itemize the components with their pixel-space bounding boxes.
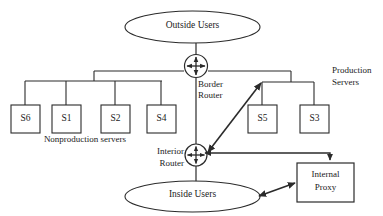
network-diagram-canvas: Outside Users Inside Users Border Router…: [0, 0, 383, 216]
server-label-s4: S4: [147, 114, 176, 124]
cloud-label-inside-users: Inside Users: [125, 190, 260, 200]
interior-router-label-line1: Interior: [124, 147, 184, 156]
production-servers-caption-line2: Servers: [332, 78, 359, 87]
interior-router-symbol: [185, 144, 207, 166]
interior-router-label-line2: Router: [124, 159, 184, 168]
border-router-symbol: [185, 55, 208, 78]
production-servers-caption-line1: Production: [332, 66, 372, 75]
nonproduction-servers-caption: Nonproduction servers: [30, 135, 140, 144]
server-label-s3: S3: [300, 114, 329, 124]
internal-proxy-label-line1: Internal: [297, 170, 354, 179]
server-label-s6: S6: [11, 114, 40, 124]
internal-proxy-label-line2: Proxy: [297, 183, 354, 192]
server-label-s5: S5: [248, 114, 277, 124]
cloud-label-outside-users: Outside Users: [125, 21, 260, 31]
server-label-s2: S2: [101, 114, 130, 124]
server-label-s1: S1: [52, 114, 81, 124]
link-interior-to-proxy: [205, 153, 330, 160]
nonproduction-bus: [25, 71, 184, 105]
link-inside-to-proxy: [259, 183, 295, 196]
border-router-label-line1: Border: [198, 80, 223, 89]
production-bus: [208, 71, 314, 105]
border-router-label-line2: Router: [198, 91, 223, 100]
